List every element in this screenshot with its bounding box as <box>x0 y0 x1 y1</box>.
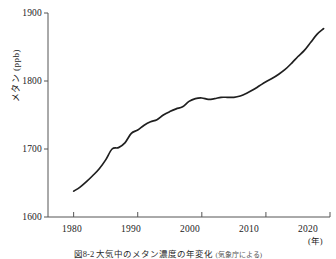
x-axis-ticks <box>74 212 330 217</box>
figure-caption-text: 図8-2 大気中のメタン濃度の年変化 <box>74 249 213 259</box>
figure-caption: 図8-2 大気中のメタン濃度の年変化 (気象庁による) <box>0 249 336 259</box>
methane-concentration-figure: メタン (ppb) 1900 1800 1700 1600 1980 1990 … <box>0 0 336 259</box>
figure-caption-source: (気象庁による) <box>215 251 262 259</box>
plot-area <box>0 0 336 259</box>
y-axis-ticks <box>44 13 48 217</box>
methane-trend-line <box>74 29 324 192</box>
